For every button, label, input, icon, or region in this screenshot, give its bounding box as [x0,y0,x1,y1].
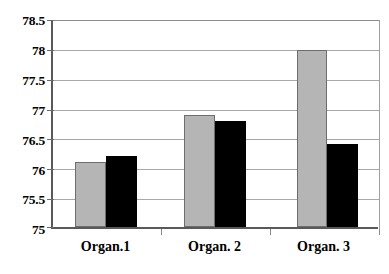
x-axis-tick-mark [161,229,162,235]
gridline-77-5 [53,80,380,81]
plot-area [51,20,378,229]
y-axis-tick-mark [47,139,54,140]
x-axis-label-organ-1: Organ.1 [51,240,160,254]
bar-group1-series-black [106,156,137,227]
x-axis-tick-mark [379,229,380,235]
bar-group2-series-black [215,121,246,227]
y-axis-tick-mark [47,199,54,200]
gridline-78 [53,50,380,51]
y-axis-tick-mark [47,227,54,228]
y-axis-tick-label: 77.5 [0,74,45,88]
y-axis-tick-label: 75 [0,223,45,237]
y-axis-tick-label: 78 [0,44,45,58]
y-axis-tick-label: 75.5 [0,193,45,207]
x-axis-tick-mark [270,229,271,235]
y-axis-tick-label: 76.5 [0,134,45,148]
x-axis-label-organ-3: Organ. 3 [269,240,378,254]
bar-chart: 78.5 78 77.5 77 76.5 76 75.5 75 [0,0,389,274]
y-axis-tick-mark [47,110,54,111]
y-axis-tick-mark [47,20,54,21]
bar-group3-series-black [327,144,358,227]
y-axis-tick-label: 76 [0,164,45,178]
gridline-77 [53,110,380,111]
y-axis-tick-mark [47,50,54,51]
bar-group3-series-gray [297,50,327,227]
bar-group2-series-gray [184,115,215,227]
y-axis-tick-mark [47,80,54,81]
x-axis-label-organ-2: Organ. 2 [160,240,269,254]
bar-group1-series-gray [75,162,106,227]
gridline-78-5 [53,20,380,21]
y-axis-tick-label: 78.5 [0,14,45,28]
plot-right-border [379,20,380,229]
y-axis-tick-label: 77 [0,104,45,118]
y-axis-tick-mark [47,169,54,170]
